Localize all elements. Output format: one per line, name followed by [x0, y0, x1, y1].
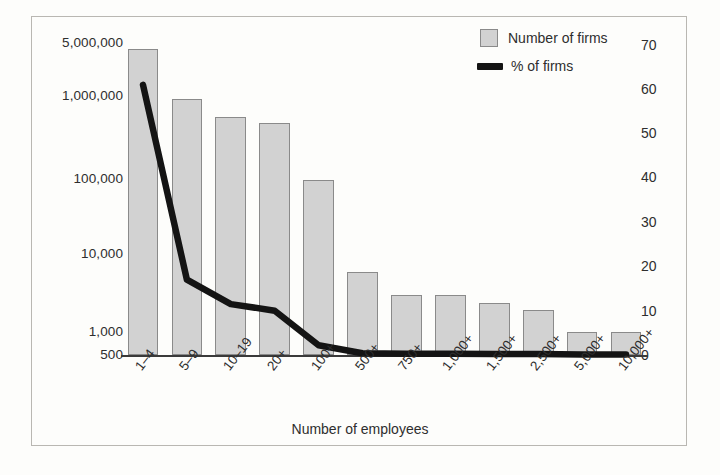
bar-5-9 — [172, 99, 203, 355]
y-axis-left-tick: 1,000 — [89, 324, 123, 339]
y-axis-right-tick: 30 — [641, 214, 657, 230]
y-axis-right-tick: 20 — [641, 258, 657, 274]
x-axis-title: Number of employees — [0, 421, 720, 437]
bar-100- — [303, 180, 334, 355]
chart-legend: Number of firms % of firms — [480, 26, 608, 82]
bar-swatch-icon — [480, 29, 498, 47]
line-swatch-icon — [477, 63, 503, 70]
y-axis-right-tick: 50 — [641, 125, 657, 141]
y-axis-right-tick: 70 — [641, 37, 657, 53]
legend-item-percent-of-firms: % of firms — [480, 54, 608, 78]
y-axis-left-tick: 1,000,000 — [62, 88, 123, 103]
y-axis-left-tick: 500 — [100, 347, 123, 362]
legend-label: Number of firms — [508, 30, 608, 46]
legend-label: % of firms — [511, 58, 573, 74]
bar-20- — [259, 123, 290, 355]
bar-10-19 — [215, 117, 246, 355]
y-axis-left-tick: 100,000 — [74, 171, 124, 186]
y-axis-left-tick: 5,000,000 — [62, 35, 123, 50]
y-axis-left-tick: 10,000 — [81, 246, 123, 261]
bar-1-4 — [128, 49, 159, 355]
y-axis-right: 70 60 50 40 30 20 10 0 — [641, 0, 691, 475]
y-axis-left: 5,000,000 1,000,000 100,000 10,000 1,000… — [18, 0, 123, 475]
y-axis-right-tick: 10 — [641, 303, 657, 319]
y-axis-right-tick: 40 — [641, 169, 657, 185]
y-axis-right-tick: 60 — [641, 81, 657, 97]
legend-item-number-of-firms: Number of firms — [480, 26, 608, 50]
